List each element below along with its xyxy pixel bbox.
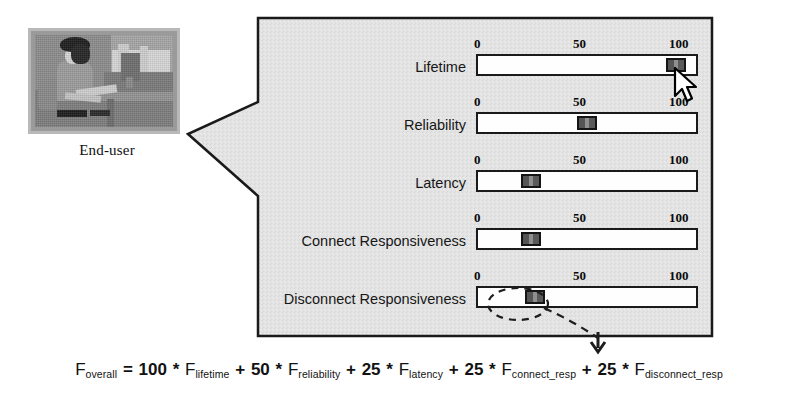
formula-overall-fitness: Foverall = 100 * Flifetime + 50 * Frelia… [0, 360, 798, 380]
formula-plus-3: + [449, 360, 459, 379]
slider-row-connect-responsiveness: 0 50 100 Connect Responsiveness [258, 210, 708, 262]
slider-label-disconnect-responsiveness: Disconnect Responsiveness [258, 290, 466, 308]
slider-track-connect-responsiveness[interactable] [476, 228, 698, 250]
formula-term-3: Flatency [399, 360, 443, 379]
slider-thumb-reliability[interactable] [577, 116, 597, 130]
formula-multiply-4: * [489, 360, 496, 379]
slider-track-reliability[interactable] [476, 112, 698, 134]
slider-track-lifetime[interactable] [476, 54, 698, 76]
scale-lifetime: 0 50 100 [476, 36, 698, 52]
formula-coefficient-4: 25 [464, 360, 483, 379]
slider-thumb-connect-responsiveness[interactable] [521, 232, 541, 246]
formula-multiply-2: * [276, 360, 283, 379]
formula-multiply-3: * [386, 360, 393, 379]
formula-multiply-1: * [173, 360, 180, 379]
formula-multiply-5: * [622, 360, 629, 379]
formula-term-1: Flifetime [185, 360, 229, 379]
enduser-photo-frame [28, 28, 180, 134]
formula-equals: = [123, 360, 133, 379]
slider-row-lifetime: 0 50 100 Lifetime [258, 36, 708, 88]
tick-0: 0 [474, 152, 481, 168]
tick-50: 50 [573, 94, 586, 110]
annotation-callout-leader [470, 278, 650, 360]
dashed-highlight-ellipse [488, 288, 548, 320]
tick-100: 100 [669, 152, 689, 168]
formula-term-4: Fconnect_resp [501, 360, 576, 379]
slider-track-latency[interactable] [476, 170, 698, 192]
formula-coefficient-5: 25 [598, 360, 617, 379]
mouse-cursor-icon [672, 66, 702, 106]
slider-label-lifetime: Lifetime [258, 58, 466, 76]
tick-0: 0 [474, 94, 481, 110]
slider-label-reliability: Reliability [258, 116, 466, 134]
scale-reliability: 0 50 100 [476, 94, 698, 110]
enduser-caption: End-user [28, 142, 186, 159]
formula-plus-1: + [235, 360, 245, 379]
tick-50: 50 [573, 152, 586, 168]
scale-latency: 0 50 100 [476, 152, 698, 168]
end-user-photo [35, 35, 173, 127]
slider-row-reliability: 0 50 100 Reliability [258, 94, 708, 146]
dashed-leader-line [544, 308, 598, 338]
tick-100: 100 [669, 36, 689, 52]
slider-label-connect-responsiveness: Connect Responsiveness [258, 232, 466, 250]
slider-thumb-latency[interactable] [521, 174, 541, 188]
slider-row-latency: 0 50 100 Latency [258, 152, 708, 204]
enduser-block: End-user [28, 28, 186, 159]
tick-100: 100 [669, 268, 689, 284]
formula-term-2: Freliability [288, 360, 340, 379]
formula-plus-2: + [346, 360, 356, 379]
formula-coefficient-3: 25 [362, 360, 381, 379]
formula-lhs: Foverall [75, 360, 117, 379]
formula-plus-4: + [582, 360, 592, 379]
formula-term-5: Fdisconnect_resp [635, 360, 723, 379]
slider-label-latency: Latency [258, 174, 466, 192]
tick-0: 0 [474, 36, 481, 52]
formula-coefficient-2: 50 [251, 360, 270, 379]
tick-100: 100 [669, 210, 689, 226]
scale-connect-responsiveness: 0 50 100 [476, 210, 698, 226]
tick-50: 50 [573, 210, 586, 226]
tick-0: 0 [474, 210, 481, 226]
formula-coefficient-1: 100 [139, 360, 167, 379]
tick-50: 50 [573, 36, 586, 52]
